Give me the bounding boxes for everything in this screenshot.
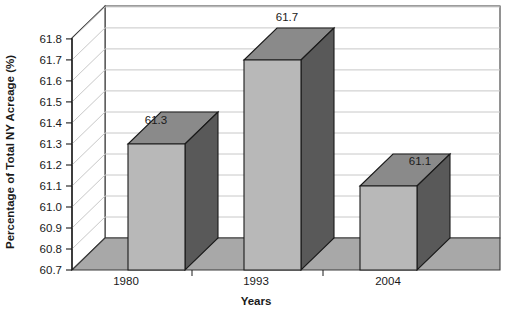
bar-value-label: 61.7 <box>276 11 298 23</box>
y-axis-title: Percentage of Total NY Acreage (%) <box>4 55 16 249</box>
y-tick-label: 61.3 <box>40 138 62 150</box>
y-axis-ticks <box>66 39 72 270</box>
bar-1993[interactable] <box>244 28 334 270</box>
bar-value-label: 61.3 <box>145 114 167 126</box>
y-tick-label: 61.4 <box>40 117 63 129</box>
y-tick-labels: 60.7 60.8 60.9 61.0 61.1 61.2 61.3 61.4 … <box>40 33 63 276</box>
bar-1980[interactable] <box>128 112 218 270</box>
y-tick-label: 61.2 <box>40 159 62 171</box>
y-tick-label: 61.7 <box>40 54 62 66</box>
bar-chart-figure: 60.7 60.8 60.9 61.0 61.1 61.2 61.3 61.4 … <box>0 0 505 312</box>
y-axis: 60.7 60.8 60.9 61.0 61.1 61.2 61.3 61.4 … <box>40 33 72 276</box>
y-tick-label: 60.7 <box>40 264 62 276</box>
x-tick-label: 2004 <box>375 275 401 287</box>
x-tick-labels: 1980 1993 2004 <box>113 275 401 287</box>
bar-front-face <box>128 144 185 270</box>
y-tick-label: 60.9 <box>40 222 62 234</box>
bar-value-label: 61.1 <box>409 155 431 167</box>
y-tick-label: 61.1 <box>40 180 62 192</box>
bar-front-face <box>244 60 301 270</box>
y-tick-label: 61.0 <box>40 201 62 213</box>
x-tick-label: 1980 <box>113 275 139 287</box>
y-tick-label: 61.8 <box>40 33 62 45</box>
y-tick-label: 61.6 <box>40 75 62 87</box>
bar-front-face <box>360 186 417 270</box>
bar-side-face <box>301 28 334 270</box>
chart-canvas: 60.7 60.8 60.9 61.0 61.1 61.2 61.3 61.4 … <box>0 0 505 312</box>
y-tick-label: 61.5 <box>40 96 62 108</box>
x-axis-title: Years <box>241 295 272 307</box>
x-tick-label: 1993 <box>243 275 269 287</box>
y-tick-label: 60.8 <box>40 243 62 255</box>
